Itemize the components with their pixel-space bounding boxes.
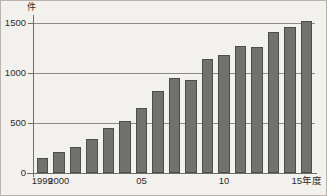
- y-tick-label-1500: 1500: [5, 18, 26, 27]
- bar: [202, 59, 214, 174]
- bar: [70, 147, 82, 174]
- bar: [251, 47, 263, 173]
- x-tick-label-2005: 05: [136, 175, 147, 186]
- y-axis-tick-labels: 1500 1000 500 0: [1, 1, 26, 196]
- bar: [103, 128, 115, 174]
- bar: [268, 32, 280, 174]
- x-tick-label-2000: 2000: [48, 175, 69, 186]
- x-axis-tick-labels: 19992000051015年度: [1, 175, 327, 195]
- x-tick-label-2010: 10: [219, 175, 230, 186]
- x-axis-line: [27, 173, 317, 174]
- bar: [136, 108, 148, 174]
- bar: [284, 27, 296, 174]
- bar: [119, 121, 131, 174]
- bar: [152, 91, 164, 173]
- bar: [185, 80, 197, 174]
- y-tick-label-1000: 1000: [5, 68, 26, 77]
- plot-area: [34, 23, 315, 173]
- bar: [218, 55, 230, 174]
- gridline-1500: [34, 23, 315, 24]
- x-tick-label-2015: 15年度: [291, 175, 322, 186]
- bar: [235, 46, 247, 174]
- bar: [169, 78, 181, 174]
- bar: [53, 152, 65, 173]
- y-tick-label-500: 500: [10, 118, 26, 127]
- bar: [37, 158, 49, 173]
- bar-chart-figure: 件 1500 1000 500 0 19992000051015年度: [0, 0, 327, 196]
- bar: [86, 139, 98, 174]
- bar: [301, 21, 313, 173]
- y-axis-unit-label: 件: [27, 2, 36, 12]
